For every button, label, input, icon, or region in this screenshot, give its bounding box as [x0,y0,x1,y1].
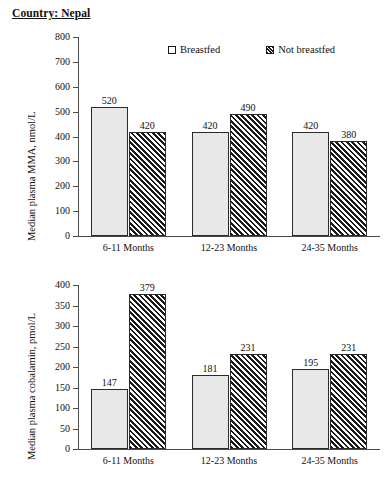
y-tick-label: 400 [55,280,70,290]
bar-value-label: 420 [140,120,155,131]
y-tick-mark [73,186,78,187]
y-axis-title-cobalamin: Median plasma cobalamin, pmol/L [26,313,37,460]
y-tick-mark [73,37,78,38]
figure-root: Country: Nepal Median plasma MMA, nmol/L… [0,0,388,486]
y-tick-label: 0 [65,231,70,241]
bar-value-label: 181 [203,363,218,374]
bar: 490 [230,114,267,236]
y-tick-label: 800 [55,32,70,42]
y-tick-mark [73,326,78,327]
x-axis-category-label: 24-35 Months [301,242,357,253]
x-axis-category-label: 12-23 Months [201,455,257,466]
y-tick-mark [73,388,78,389]
bar: 379 [129,294,166,449]
x-axis-line-mma [78,236,380,237]
bar-value-label: 520 [102,95,117,106]
y-tick-label: 400 [55,132,70,142]
bar: 520 [91,107,128,236]
y-axis-title-mma: Median plasma MMA, nmol/L [26,112,37,242]
bar: 231 [230,354,267,449]
y-tick-label: 100 [55,206,70,216]
bar-value-label: 231 [241,342,256,353]
y-tick-mark [73,347,78,348]
x-axis-category-label: 6-11 Months [103,455,154,466]
bar-value-label: 490 [241,102,256,113]
bar: 420 [192,132,229,236]
bar: 420 [129,132,166,236]
y-axis-line-mma [78,37,79,237]
figure-title: Country: Nepal [12,7,90,19]
x-axis-category-label: 6-11 Months [103,242,154,253]
y-tick-mark [73,285,78,286]
bar-value-label: 231 [341,342,356,353]
bar: 181 [192,375,229,449]
y-tick-label: 250 [55,342,70,352]
y-tick-label: 350 [55,301,70,311]
y-tick-label: 600 [55,82,70,92]
y-tick-label: 200 [55,181,70,191]
y-tick-label: 100 [55,403,70,413]
y-tick-label: 300 [55,156,70,166]
x-axis-labels-cobalamin: 6-11 Months12-23 Months24-35 Months [78,455,380,471]
y-tick-mark [73,161,78,162]
bar-value-label: 379 [140,282,155,293]
y-tick-mark [73,367,78,368]
bar: 147 [91,389,128,449]
x-axis-labels-mma: 6-11 Months12-23 Months24-35 Months [78,242,380,258]
y-tick-label: 0 [65,444,70,454]
plot-area-cobalamin: 050100150200250300350400 147379181231195… [78,285,380,450]
bar: 231 [330,354,367,449]
y-tick-label: 200 [55,362,70,372]
y-tick-label: 500 [55,107,70,117]
bar: 420 [292,132,329,236]
y-tick-label: 50 [60,424,70,434]
bar-value-label: 420 [203,120,218,131]
x-axis-category-label: 24-35 Months [301,455,357,466]
chart-panel-cobalamin: Median plasma cobalamin, pmol/L 05010015… [0,272,388,486]
y-tick-mark [73,62,78,63]
y-tick-label: 300 [55,321,70,331]
y-tick-mark [73,449,78,450]
x-axis-category-label: 12-23 Months [201,242,257,253]
y-tick-label: 700 [55,57,70,67]
x-axis-line-cobalamin [78,449,380,450]
plot-area-mma: 0100200300400500600700800 52042042049042… [78,37,380,237]
y-tick-mark [73,211,78,212]
y-tick-mark [73,112,78,113]
y-axis-line-cobalamin [78,285,79,450]
y-tick-mark [73,236,78,237]
y-tick-mark [73,429,78,430]
y-tick-mark [73,408,78,409]
bar: 195 [292,369,329,449]
bar-value-label: 380 [341,129,356,140]
bar: 380 [330,141,367,236]
y-tick-mark [73,137,78,138]
chart-panel-mma: Median plasma MMA, nmol/L Breastfed Not … [0,26,388,266]
y-tick-mark [73,306,78,307]
bar-value-label: 195 [303,357,318,368]
bar-value-label: 420 [303,120,318,131]
y-tick-label: 150 [55,383,70,393]
bar-value-label: 147 [102,377,117,388]
y-tick-mark [73,87,78,88]
